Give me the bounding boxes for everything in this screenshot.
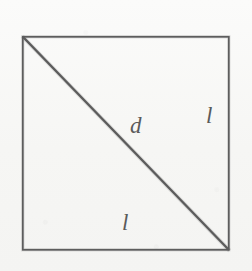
bottom-side-label: l: [122, 211, 128, 234]
diagonal-label: d: [130, 114, 142, 137]
right-side-label: l: [206, 104, 212, 127]
figure-container: d l l: [0, 0, 252, 271]
